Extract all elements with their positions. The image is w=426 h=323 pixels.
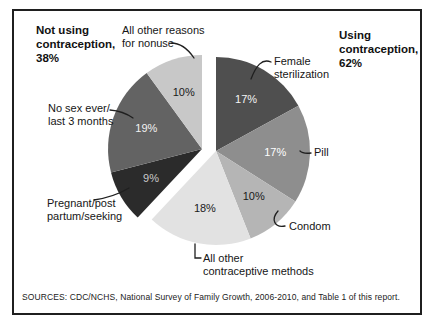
pct-label-condom: 10% [243, 190, 265, 202]
pie-slice-layer: 17%17%10%18%9%19%10% [108, 55, 310, 245]
pct-label-all-other-reasons-for-nonuse: 10% [173, 86, 195, 98]
callout-no-sex: No sex ever/ last 3 months [48, 102, 113, 128]
pct-label-pregnant-post-partum-seeking: 9% [143, 172, 159, 184]
callout-pregnant: Pregnant/post partum/seeking [47, 197, 122, 223]
callout-female-sterilization: Female sterilization [274, 55, 329, 81]
leader-all-other-methods [195, 244, 201, 258]
pct-label-pill: 17% [264, 146, 286, 158]
pct-label-no-sex-ever-last-3-months: 19% [135, 122, 157, 134]
pct-label-all-other-contraceptive-methods: 18% [194, 202, 216, 214]
callout-all-other-methods: All other contraceptive methods [203, 252, 314, 278]
pct-label-female-sterilization: 17% [235, 93, 257, 105]
callout-nonuse-other: All other reasons for nonuse [122, 24, 205, 50]
source-note: SOURCES: CDC/NCHS, National Survey of Fa… [22, 292, 400, 302]
callout-pill: Pill [314, 146, 329, 159]
callout-condom: Condom [289, 220, 331, 233]
figure-page: { "annotations": { "not_using": "Not usi… [0, 0, 426, 323]
not-using-annotation: Not using contraception, 38% [36, 23, 115, 65]
using-annotation: Using contraception, 62% [339, 28, 418, 70]
